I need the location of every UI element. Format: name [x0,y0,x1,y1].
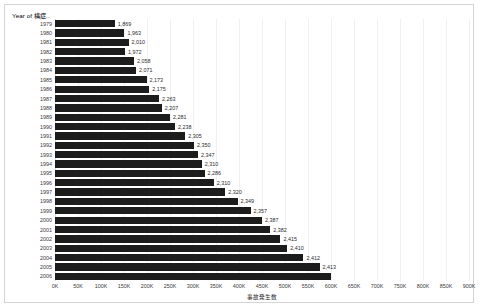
x-axis-tick-label: 50K [73,283,83,289]
bar[interactable] [55,263,320,270]
bar-value-label: 2,310 [217,180,231,186]
x-axis-tick-label: 800K [417,283,430,289]
bar[interactable] [55,132,185,139]
category-label: 1995 [40,170,52,176]
bar[interactable] [55,67,136,74]
bar[interactable] [55,198,238,205]
bar-row: 19832,058 [55,56,469,65]
category-label: 1988 [40,105,52,111]
category-label: 1991 [40,133,52,139]
bar[interactable] [55,235,280,242]
bar-value-label: 2,058 [137,58,151,64]
category-label: 2000 [40,217,52,223]
bar-row: 19942,310 [55,159,469,168]
bar-row: 19862,175 [55,85,469,94]
bar[interactable] [55,76,147,83]
bar[interactable] [55,188,225,195]
category-label: 1990 [40,124,52,130]
bar-value-label: 2,071 [139,67,153,73]
category-label: 1981 [40,39,52,45]
bar[interactable] [55,20,115,27]
bar[interactable] [55,48,125,55]
bar-value-label: 2,286 [208,170,222,176]
bar-row: 19982,349 [55,197,469,206]
category-label: 2002 [40,236,52,242]
bar[interactable] [55,39,129,46]
x-axis-tick-label: 850K [440,283,453,289]
x-axis-tick-label: 650K [348,283,361,289]
bar-value-label: 2,357 [254,208,268,214]
bar[interactable] [55,179,214,186]
category-label: 1987 [40,96,52,102]
category-label: 1998 [40,198,52,204]
x-axis-tick-label: 600K [325,283,338,289]
bar[interactable] [55,104,162,111]
bar[interactable] [55,160,202,167]
category-label: 1994 [40,161,52,167]
bar-row: 19791,869 [55,19,469,28]
x-axis-tick-label: 900K [463,283,476,289]
x-axis-tick-label: 550K [302,283,315,289]
category-label: 2006 [40,273,52,279]
x-axis-ticks: 0K50K100K150K200K250K300K350K400K450K500… [55,281,469,293]
bar[interactable] [55,273,331,280]
bar-row: 19842,071 [55,66,469,75]
bar-row: 19932,347 [55,150,469,159]
category-label: 1989 [40,114,52,120]
chart-title: Year of 構症.. [12,11,50,20]
category-label: 1982 [40,49,52,55]
bar[interactable] [55,245,287,252]
bar-row: 19892,281 [55,113,469,122]
bar[interactable] [55,123,175,130]
bar[interactable] [55,217,262,224]
bar[interactable] [55,29,124,36]
category-label: 2001 [40,227,52,233]
bar[interactable] [55,95,159,102]
bar-row: 19812,010 [55,38,469,47]
bar[interactable] [55,114,170,121]
bar-row: 19872,263 [55,94,469,103]
bar-row: 19922,350 [55,141,469,150]
bar-value-label: 2,010 [132,39,146,45]
bar-value-label: 2,412 [306,255,320,261]
bar-value-label: 1,963 [127,30,141,36]
bar-value-label: 2,175 [152,86,166,92]
bar-row: 20032,410 [55,244,469,253]
bar[interactable] [55,254,303,261]
bar-value-label: 2,281 [173,114,187,120]
bar-row: 19902,238 [55,122,469,131]
category-label: 1997 [40,189,52,195]
plot-area: 19791,86919801,96319812,01019821,9721983… [55,19,469,281]
bar-row: 20052,413 [55,262,469,271]
category-label: 2003 [40,245,52,251]
category-label: 1985 [40,77,52,83]
x-axis-tick-label: 400K [233,283,246,289]
bar[interactable] [55,151,198,158]
bar-value-label: 2,207 [165,105,179,111]
x-axis-tick-label: 750K [394,283,407,289]
category-label: 1992 [40,142,52,148]
category-label: 1984 [40,67,52,73]
bar-value-label: 2,347 [201,152,215,158]
bar[interactable] [55,226,270,233]
bar-value-label: 2,238 [178,124,192,130]
bar[interactable] [55,57,134,64]
category-label: 1983 [40,58,52,64]
bar[interactable] [55,142,194,149]
bar-row: 20042,412 [55,253,469,262]
x-axis-label: 事故発生数 [55,293,469,301]
bar-row: 19962,310 [55,178,469,187]
bar-value-label: 2,173 [150,77,164,83]
category-label: 2005 [40,264,52,270]
bar[interactable] [55,207,251,214]
bar-value-label: 2,320 [228,189,242,195]
bar[interactable] [55,170,205,177]
bar[interactable] [55,86,149,93]
bar-row: 2006 [55,272,469,281]
bar-row: 20012,382 [55,225,469,234]
category-label: 1999 [40,208,52,214]
x-axis-tick-label: 100K [95,283,108,289]
bar-value-label: 1,972 [128,49,142,55]
bar-value-label: 2,310 [205,161,219,167]
bar-value-label: 2,415 [283,236,297,242]
